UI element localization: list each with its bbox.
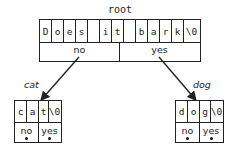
yes-pointer: yes (39, 123, 60, 142)
char-cell: c (15, 101, 27, 122)
char-cell: o (188, 101, 200, 122)
cat-pointer-row: no yes (15, 123, 61, 142)
edge-label-dog: dog (193, 79, 211, 90)
null-pointer-dot (25, 137, 28, 140)
char-cell: d (176, 101, 188, 122)
yes-pointer: yes (200, 123, 222, 142)
arrow-no-to-cat (42, 57, 79, 99)
char-cell: a (27, 101, 39, 122)
null-terminator-cell: \0 (211, 101, 222, 122)
cat-string-row: c a t \0 (15, 101, 61, 123)
cat-node: c a t \0 no yes (14, 100, 62, 143)
null-terminator-cell: \0 (49, 101, 60, 122)
null-pointer-dot (48, 137, 51, 140)
null-pointer-dot (210, 137, 213, 140)
dog-node: d o g \0 no yes (175, 100, 224, 143)
arrow-yes-to-dog (159, 57, 195, 99)
null-pointer-dot (186, 137, 189, 140)
dog-pointer-row: no yes (176, 123, 223, 142)
char-cell: g (200, 101, 211, 122)
no-pointer: no (176, 123, 200, 142)
no-pointer: no (15, 123, 39, 142)
char-cell: t (39, 101, 49, 122)
dog-string-row: d o g \0 (176, 101, 223, 123)
edge-label-cat: cat (24, 79, 39, 90)
